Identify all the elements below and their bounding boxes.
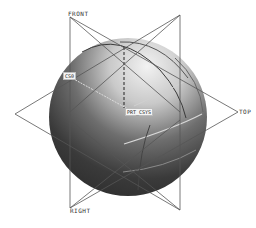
sphere-body[interactable] — [49, 38, 207, 196]
datum-label-right[interactable]: RIGHT — [70, 207, 91, 214]
datum-label-front[interactable]: FRONT — [68, 10, 89, 17]
datum-label-top[interactable]: TOP — [239, 108, 251, 115]
csys-label-left[interactable]: CS0 — [63, 72, 76, 80]
cad-viewport[interactable]: FRONT TOP RIGHT CS0 PRT_CSYS — [0, 0, 256, 228]
csys-label-center[interactable]: PRT_CSYS — [125, 108, 153, 116]
